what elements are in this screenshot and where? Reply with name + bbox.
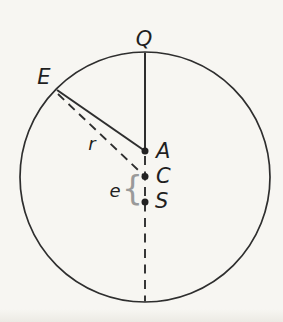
label-a: A xyxy=(154,139,170,163)
point-a-dot xyxy=(142,148,149,155)
label-r-radius: r xyxy=(88,133,97,154)
label-e-point: E xyxy=(37,65,51,89)
segment-e-c-dashed xyxy=(58,94,145,177)
label-s: S xyxy=(155,189,168,213)
circle-diagram-svg: { Q E A C S r e xyxy=(0,0,283,322)
label-q: Q xyxy=(136,27,153,51)
e-brace: { xyxy=(122,169,143,208)
label-c: C xyxy=(156,164,171,188)
geometry-figure: { Q E A C S r e xyxy=(0,0,283,322)
segment-e-a xyxy=(57,90,145,151)
label-e-distance: e xyxy=(109,180,120,201)
